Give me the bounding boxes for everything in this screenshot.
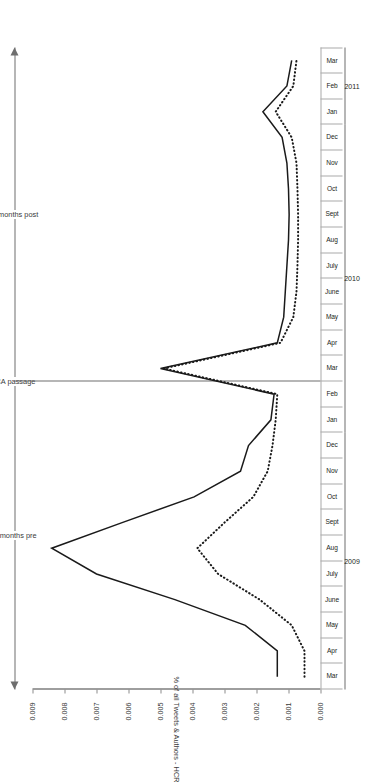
series-line xyxy=(163,60,304,676)
series-line xyxy=(51,60,291,676)
chart-legend: % of all Tweets - HCR% of all Authors - … xyxy=(360,56,361,57)
